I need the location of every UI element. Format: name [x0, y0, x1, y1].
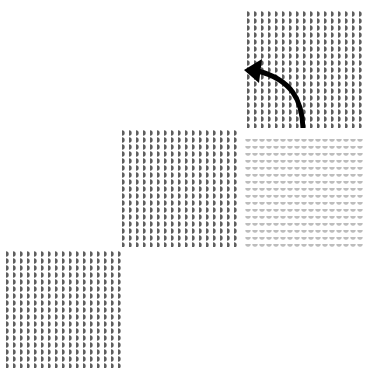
half-disc-glyph: [331, 88, 334, 93]
half-disc-glyph: [234, 165, 237, 170]
half-disc-glyph: [41, 251, 44, 256]
half-disc-glyph: [48, 293, 51, 298]
half-disc-glyph: [97, 293, 100, 298]
half-disc-glyph: [55, 356, 58, 361]
half-disc-glyph: [259, 195, 264, 198]
half-disc-glyph: [90, 307, 93, 312]
half-disc-glyph: [282, 60, 285, 65]
half-disc-glyph: [287, 202, 292, 205]
half-disc-glyph: [97, 300, 100, 305]
half-disc-glyph: [324, 123, 327, 128]
half-disc-glyph: [136, 144, 139, 149]
half-disc-glyph: [111, 314, 114, 319]
half-disc-glyph: [287, 223, 292, 226]
half-disc-glyph: [301, 237, 306, 240]
half-disc-glyph: [171, 186, 174, 191]
half-disc-glyph: [185, 151, 188, 156]
half-disc-glyph: [122, 165, 125, 170]
half-disc-glyph: [315, 167, 320, 170]
half-disc-glyph: [308, 230, 313, 233]
half-disc-glyph: [343, 139, 348, 142]
half-disc-glyph: [90, 356, 93, 361]
half-disc-glyph: [345, 25, 348, 30]
half-disc-glyph: [157, 214, 160, 219]
half-disc-glyph: [275, 116, 278, 121]
half-disc-glyph: [76, 265, 79, 270]
half-disc-glyph: [352, 60, 355, 65]
half-disc-glyph: [329, 174, 334, 177]
half-disc-glyph: [192, 130, 195, 135]
half-disc-glyph: [157, 158, 160, 163]
half-disc-glyph: [48, 342, 51, 347]
half-disc-glyph: [289, 109, 292, 114]
half-disc-glyph: [282, 67, 285, 72]
half-disc-glyph: [104, 265, 107, 270]
half-disc-glyph: [310, 88, 313, 93]
half-disc-glyph: [315, 223, 320, 226]
half-disc-glyph: [171, 130, 174, 135]
half-disc-glyph: [343, 209, 348, 212]
half-disc-glyph: [329, 223, 334, 226]
half-disc-glyph: [227, 137, 230, 142]
half-disc-glyph: [336, 223, 341, 226]
half-disc-glyph: [55, 300, 58, 305]
half-disc-glyph: [122, 130, 125, 135]
half-disc-glyph: [90, 342, 93, 347]
half-disc-glyph: [254, 88, 257, 93]
half-disc-glyph: [266, 209, 271, 212]
half-disc-glyph: [331, 123, 334, 128]
half-disc-glyph: [343, 237, 348, 240]
half-disc-glyph: [220, 228, 223, 233]
half-disc-glyph: [294, 139, 299, 142]
half-disc-glyph: [220, 186, 223, 191]
half-disc-glyph: [213, 151, 216, 156]
half-disc-glyph: [289, 95, 292, 100]
half-disc-glyph: [129, 242, 132, 247]
half-disc-glyph: [150, 200, 153, 205]
half-disc-glyph: [352, 116, 355, 121]
half-disc-glyph: [227, 235, 230, 240]
half-disc-glyph: [90, 363, 93, 368]
half-disc-glyph: [6, 272, 9, 277]
half-disc-glyph: [266, 139, 271, 142]
half-disc-grid-middle: [120, 129, 238, 247]
half-disc-glyph: [178, 193, 181, 198]
half-disc-glyph: [317, 53, 320, 58]
half-disc-glyph: [315, 153, 320, 156]
half-disc-glyph: [303, 18, 306, 23]
half-disc-glyph: [150, 207, 153, 212]
half-disc-glyph: [322, 160, 327, 163]
half-disc-glyph: [143, 193, 146, 198]
half-disc-glyph: [296, 123, 299, 128]
half-disc-glyph: [324, 11, 327, 16]
half-disc-glyph: [301, 174, 306, 177]
half-disc-glyph: [27, 321, 30, 326]
half-disc-glyph: [280, 146, 285, 149]
half-disc-glyph: [178, 165, 181, 170]
half-disc-glyph: [275, 67, 278, 72]
half-disc-glyph: [213, 200, 216, 205]
half-disc-glyph: [245, 244, 250, 247]
half-disc-glyph: [273, 244, 278, 247]
half-disc-glyph: [352, 53, 355, 58]
half-disc-glyph: [220, 193, 223, 198]
half-disc-glyph: [317, 39, 320, 44]
half-disc-glyph: [343, 174, 348, 177]
half-disc-glyph: [322, 146, 327, 149]
half-disc-glyph: [206, 137, 209, 142]
half-disc-glyph: [352, 67, 355, 72]
half-disc-glyph: [357, 146, 362, 149]
half-disc-glyph: [315, 188, 320, 191]
half-disc-glyph: [27, 307, 30, 312]
half-disc-glyph: [13, 342, 16, 347]
half-disc-glyph: [129, 158, 132, 163]
half-disc-glyph: [247, 25, 250, 30]
half-disc-glyph: [359, 60, 362, 65]
half-disc-glyph: [329, 146, 334, 149]
half-disc-glyph: [317, 102, 320, 107]
half-disc-glyph: [20, 251, 23, 256]
half-disc-glyph: [245, 139, 250, 142]
half-disc-glyph: [268, 88, 271, 93]
half-disc-glyph: [83, 342, 86, 347]
half-disc-glyph: [322, 209, 327, 212]
